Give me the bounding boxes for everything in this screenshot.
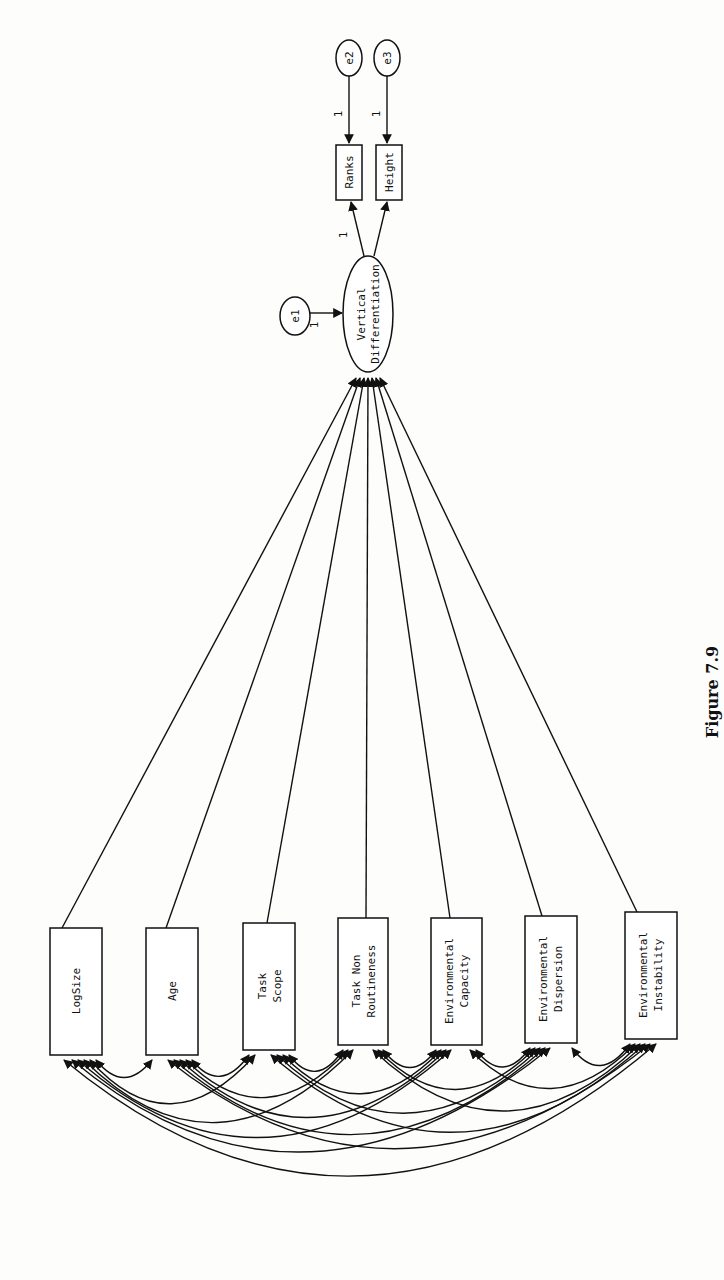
e1-weight: 1 — [308, 322, 321, 329]
latent-to-ranks-path — [351, 202, 364, 256]
task-scope-label-1: Task — [256, 972, 269, 999]
sem-path-diagram: e2 e3 1 1 Ranks Height 1 Vertical Differ… — [0, 0, 724, 1280]
task-scope-label-2: Scope — [271, 969, 284, 1002]
e2-weight: 1 — [332, 111, 345, 118]
error-e2-label: e2 — [343, 51, 356, 64]
env-dispersion-label-1: Environmental — [537, 936, 550, 1022]
ranks-label: Ranks — [343, 155, 356, 188]
predictor-age: Age — [146, 928, 198, 1055]
height-label: Height — [383, 152, 396, 192]
indicator-ranks: Ranks — [336, 145, 362, 200]
latent-label-2: Differentiation — [369, 264, 382, 363]
indicator-height: Height — [376, 145, 402, 200]
env-capacity-label-1: Environmental — [443, 938, 456, 1024]
error-e3-label: e3 — [381, 51, 394, 64]
figure-caption: Figure 7.9 — [703, 646, 722, 738]
env-instability-label-2: Instability — [652, 938, 665, 1011]
task-non-label-2: Routineness — [365, 945, 378, 1018]
covariance-arcs — [64, 1044, 656, 1176]
latent-to-height-path — [374, 202, 387, 256]
env-capacity-label-2: Capacity — [458, 954, 471, 1007]
error-e3: e3 — [374, 40, 400, 76]
error-e1: e1 — [280, 297, 310, 335]
logsize-label: LogSize — [70, 968, 83, 1014]
predictor-task-scope: Task Scope — [243, 923, 295, 1050]
latent-label-1: Vertical — [355, 288, 368, 341]
predictor-environmental-instability: Environmental Instability — [625, 912, 677, 1039]
structural-paths — [62, 378, 637, 928]
ranks-loading: 1 — [337, 232, 350, 239]
error-e1-label: e1 — [289, 309, 302, 322]
latent-vertical-differentiation: Vertical Differentiation — [343, 256, 393, 372]
task-non-label-1: Task Non — [350, 955, 363, 1008]
predictor-environmental-dispersion: Environmental Dispersion — [525, 916, 577, 1043]
e3-weight: 1 — [370, 111, 383, 118]
env-dispersion-label-2: Dispersion — [552, 946, 565, 1012]
predictor-environmental-capacity: Environmental Capacity — [431, 918, 482, 1045]
env-instability-label-1: Environmental — [637, 932, 650, 1018]
predictor-task-non-routineness: Task Non Routineness — [338, 918, 388, 1045]
predictor-logsize: LogSize — [50, 928, 102, 1055]
age-label: Age — [166, 981, 179, 1001]
error-e2: e2 — [336, 40, 362, 76]
